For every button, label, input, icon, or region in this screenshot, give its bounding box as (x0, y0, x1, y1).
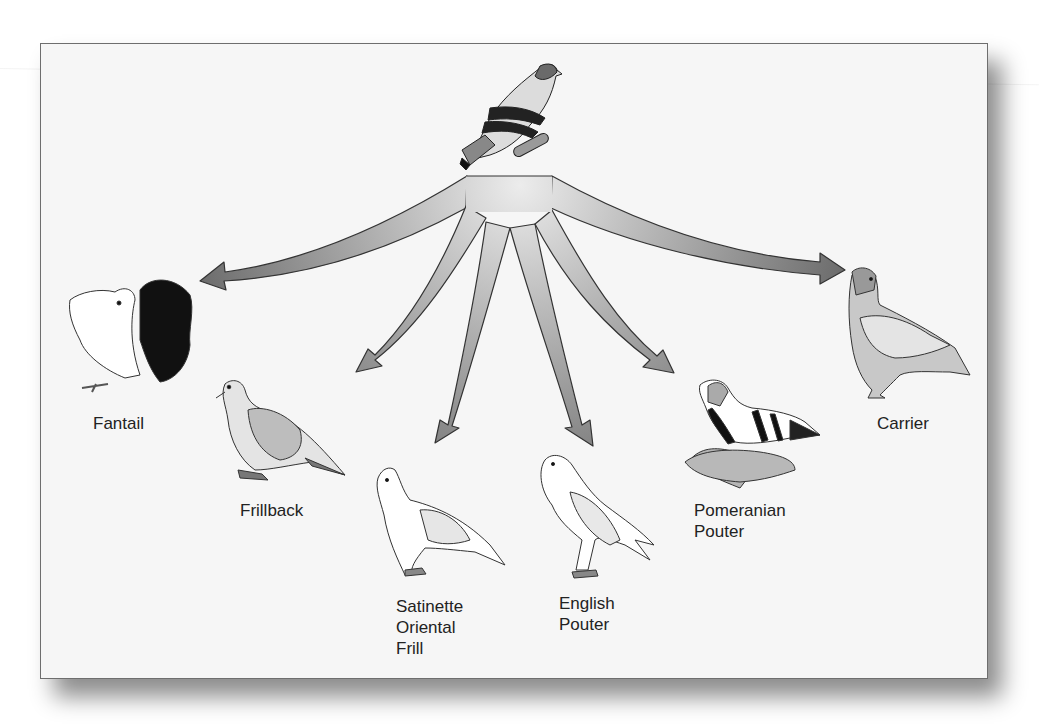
arrow-english-pouter-icon (510, 224, 593, 446)
carrier-pigeon-icon (849, 268, 970, 398)
label-satinette-oriental-frill: Satinette Oriental Frill (396, 596, 463, 659)
pomeranian-pouter-pigeon-icon (685, 380, 820, 488)
label-frillback: Frillback (240, 500, 303, 521)
label-line: Pomeranian (694, 500, 786, 521)
english-pouter-pigeon-icon (541, 455, 654, 578)
label-fantail: Fantail (93, 413, 144, 434)
satinette-pigeon-icon (377, 468, 505, 576)
label-line: Fantail (93, 413, 144, 434)
label-line: Satinette (396, 596, 463, 617)
label-line: Pouter (559, 614, 615, 635)
label-line: Carrier (877, 413, 929, 434)
frillback-pigeon-icon (216, 381, 345, 480)
pigeon-diagram (0, 0, 1039, 728)
label-line: Oriental (396, 617, 463, 638)
arrow-carrier-icon (551, 176, 845, 284)
label-line: English (559, 593, 615, 614)
label-english-pouter: English Pouter (559, 593, 615, 635)
ancestor-pigeon-icon (460, 64, 562, 170)
label-pomeranian-pouter: Pomeranian Pouter (694, 500, 786, 542)
label-line: Frillback (240, 500, 303, 521)
fantail-pigeon-icon (69, 280, 191, 392)
label-line: Frill (396, 638, 463, 659)
descent-arrows (200, 176, 845, 446)
label-carrier: Carrier (877, 413, 929, 434)
label-line: Pouter (694, 521, 786, 542)
arrow-fantail-icon (200, 176, 467, 290)
